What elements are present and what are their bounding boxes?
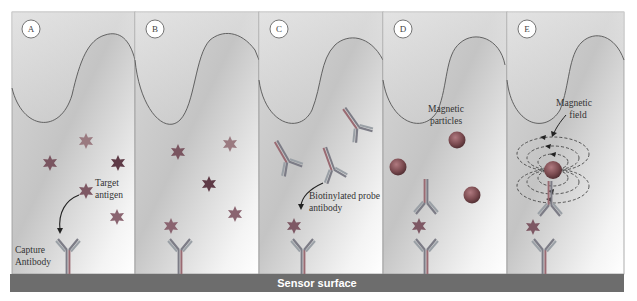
panel-label-c: C: [270, 20, 288, 38]
target-antigen-label-2: antigen: [95, 190, 123, 200]
panel-label-d: D: [394, 20, 412, 38]
capture-antibody-label-2: Antibody: [15, 257, 51, 267]
panel-label-e: E: [518, 20, 536, 38]
magnetic-field-label-2: field: [569, 110, 587, 120]
magnetic-field-label: Magnetic: [556, 98, 592, 108]
sensor-surface: Sensor surface: [10, 274, 624, 292]
capture-antibody-label: Capture: [15, 245, 45, 255]
magnetic-particles-label: Magnetic: [428, 104, 464, 114]
assay-diagram: A B C D E Target antigen Capture Antibod…: [0, 0, 637, 301]
panel-b: [135, 12, 259, 274]
panel-a: [12, 12, 135, 274]
svg-text:B: B: [152, 24, 158, 34]
panel-label-b: B: [146, 20, 164, 38]
panel-label-a: A: [22, 20, 40, 38]
panel-e: [507, 12, 624, 274]
probe-antibody-label-2: antibody: [309, 203, 342, 213]
svg-text:A: A: [28, 24, 35, 34]
panel-d: [383, 12, 507, 274]
svg-text:D: D: [400, 24, 407, 34]
magnetic-particles-label-2: particles: [430, 116, 462, 126]
target-antigen-label: Target: [95, 178, 119, 188]
svg-text:E: E: [524, 24, 530, 34]
magnetic-particle-icon: [544, 161, 562, 179]
sensor-surface-label: Sensor surface: [277, 277, 356, 289]
probe-antibody-label: Biotinylated probe: [309, 191, 380, 201]
svg-text:C: C: [276, 24, 282, 34]
